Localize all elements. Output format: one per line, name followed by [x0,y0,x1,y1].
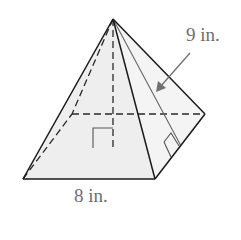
base-edge-label: 8 in. [74,186,108,205]
arrow-shaft [160,53,190,87]
slant-height-label: 9 in. [186,25,220,44]
